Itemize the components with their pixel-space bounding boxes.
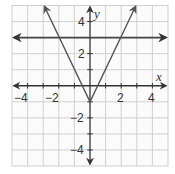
x-tick-label-neg2: −2 — [45, 91, 59, 105]
y-tick-label-neg2: −2 — [70, 111, 84, 125]
y-tick-label-neg4: −4 — [70, 143, 84, 157]
x-tick-label-2: 2 — [117, 91, 124, 105]
coordinate-plane: −4 −2 2 4 4 2 −2 −4 y x — [0, 0, 175, 174]
x-axis-label: x — [155, 69, 162, 84]
y-axis-label: y — [92, 6, 100, 21]
x-tick-label-4: 4 — [148, 91, 155, 105]
y-tick-label-4: 4 — [78, 15, 85, 29]
x-tick-label-neg4: −4 — [14, 91, 28, 105]
y-tick-label-2: 2 — [78, 47, 85, 61]
